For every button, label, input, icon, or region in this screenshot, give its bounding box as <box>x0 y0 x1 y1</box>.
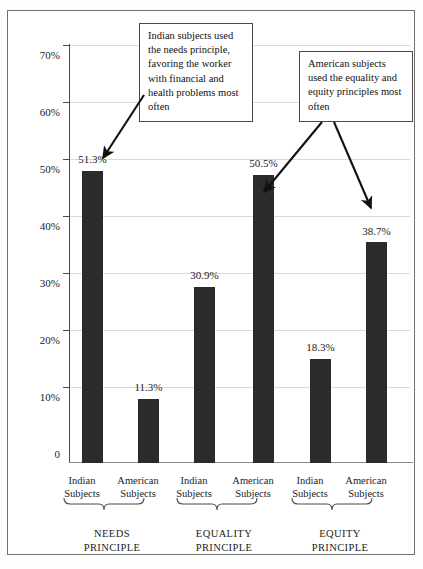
x-label-line2: Subjects <box>278 487 342 500</box>
x-label-line2: Subjects <box>50 487 114 500</box>
x-label-equality-indian: Indian Subjects <box>162 474 226 500</box>
y-tick-label-50: 50% <box>16 163 60 175</box>
y-tick-label-40: 40% <box>16 220 60 232</box>
bar-equality-american[interactable] <box>253 175 274 463</box>
bar-value-equality-indian: 30.9% <box>174 269 235 281</box>
y-tick-label-0: 0 <box>16 448 60 460</box>
x-label-line2: Subjects <box>162 487 226 500</box>
bar-needs-indian[interactable] <box>82 171 103 463</box>
x-label-line1: Indian <box>278 474 342 487</box>
group-label-line1: EQUALITY <box>166 527 282 541</box>
x-label-line1: American <box>106 474 170 487</box>
y-tick-label-10: 10% <box>16 391 60 403</box>
bar-equality-indian[interactable] <box>194 287 215 463</box>
group-label-equality: EQUALITY PRINCIPLE <box>166 527 282 555</box>
annotation-callout-needs: Indian subjects used the needs principle… <box>139 23 253 122</box>
x-label-needs-indian: Indian Subjects <box>50 474 114 500</box>
bar-equity-indian[interactable] <box>310 359 331 463</box>
group-label-line1: NEEDS <box>54 527 170 541</box>
y-tick-label-60: 60% <box>16 106 60 118</box>
x-label-equality-american: American Subjects <box>221 474 285 500</box>
bar-value-equality-american: 50.5% <box>233 157 294 169</box>
bar-value-equity-indian: 18.3% <box>290 341 351 353</box>
y-tick-label-70: 70% <box>16 49 60 61</box>
annotation-callout-american: American subjects used the equality and … <box>299 51 413 122</box>
group-label-line2: PRINCIPLE <box>54 541 170 555</box>
y-tick-label-20: 20% <box>16 334 60 346</box>
bar-value-equity-american: 38.7% <box>346 225 407 237</box>
x-label-line1: American <box>334 474 398 487</box>
x-label-line1: Indian <box>50 474 114 487</box>
x-label-line1: American <box>221 474 285 487</box>
group-label-needs: NEEDS PRINCIPLE <box>54 527 170 555</box>
x-label-needs-american: American Subjects <box>106 474 170 500</box>
group-label-line2: PRINCIPLE <box>282 541 398 555</box>
chart-frame: 70% 60% 50% 40% 30% 20% 10% 0 <box>7 10 415 555</box>
bar-needs-american[interactable] <box>138 399 159 463</box>
bar-equity-american[interactable] <box>366 242 387 463</box>
x-label-line2: Subjects <box>334 487 398 500</box>
y-tick-label-30: 30% <box>16 277 60 289</box>
x-label-line1: Indian <box>162 474 226 487</box>
group-label-equity: EQUITY PRINCIPLE <box>282 527 398 555</box>
gridline-20 <box>70 330 410 331</box>
x-label-line2: Subjects <box>221 487 285 500</box>
bar-value-needs-indian: 51.3% <box>62 153 123 165</box>
chart-figure: 70% 60% 50% 40% 30% 20% 10% 0 <box>0 0 423 569</box>
gridline-30 <box>70 273 410 274</box>
group-label-line1: EQUITY <box>282 527 398 541</box>
bar-value-needs-american: 11.3% <box>118 381 179 393</box>
group-label-line2: PRINCIPLE <box>166 541 282 555</box>
x-label-equity-american: American Subjects <box>334 474 398 500</box>
x-label-equity-indian: Indian Subjects <box>278 474 342 500</box>
x-label-line2: Subjects <box>106 487 170 500</box>
gridline-40 <box>70 216 410 217</box>
